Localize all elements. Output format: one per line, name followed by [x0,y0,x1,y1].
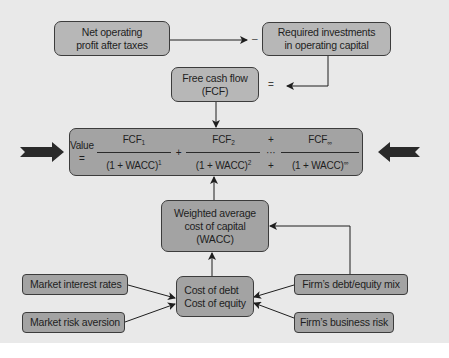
formula-term-n: FCF∞ (1 + WACC)∞ [281,133,359,172]
wacc-line3: (WACC) [174,233,256,246]
investments-line1: Required investments [278,26,376,39]
formula-lhs: Value = [70,139,94,165]
formula-ellipsis: + ··· + [265,133,276,172]
debt-equity-mix-box: Firm’s debt/equity mix [294,274,408,295]
investments-box: Required investments in operating capita… [262,22,391,56]
fcf-box: Free cash flow (FCF) [171,67,259,102]
equals-operator: = [268,79,274,90]
cost-of-capital-components-box: Cost of debt Cost of equity [176,276,254,317]
wacc-line2: cost of capital [174,220,256,233]
debt-equity-mix-label: Firm’s debt/equity mix [302,278,400,291]
wacc-line1: Weighted average [174,207,256,220]
investments-line2: in operating capital [278,39,376,52]
cost-line1: Cost of debt [184,284,245,297]
market-interest-rates-label: Market interest rates [30,278,122,291]
value-formula: Value = FCF1 (1 + WACC)1 + FCF2 (1 + WAC… [70,133,362,172]
risk-aversion-arrow [125,304,175,322]
fcf-line2: (FCF) [182,85,247,98]
business-risk-arrow [254,303,294,318]
formula-plus: + [176,146,182,159]
market-risk-aversion-box: Market risk aversion [22,312,125,333]
rates-arrow [128,285,175,298]
nopat-line1: Net operating [76,26,148,39]
left-block-arrow-icon [20,142,64,162]
nopat-box: Net operating profit after taxes [54,21,170,56]
fcf-line1: Free cash flow [182,72,247,85]
mix-to-wacc-arrow [270,226,350,274]
cost-line2: Cost of equity [184,297,245,310]
mix-to-cost-arrow [254,285,294,297]
wacc-box: Weighted average cost of capital (WACC) [161,200,269,252]
formula-term-1: FCF1 (1 + WACC)1 [97,133,171,172]
market-risk-aversion-label: Market risk aversion [30,316,120,329]
business-risk-label: Firm’s business risk [300,316,388,329]
market-interest-rates-box: Market interest rates [22,274,128,295]
minus-operator: – [252,33,258,44]
right-block-arrow-icon [378,142,420,162]
business-risk-box: Firm’s business risk [294,312,394,333]
formula-term-2: FCF2 (1 + WACC)2 [186,133,260,172]
investments-arrow [287,56,328,86]
value-formula-box: Value = FCF1 (1 + WACC)1 + FCF2 (1 + WAC… [69,128,363,176]
nopat-line2: profit after taxes [76,39,148,52]
